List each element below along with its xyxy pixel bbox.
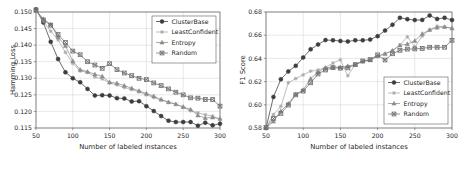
data-point — [294, 64, 298, 68]
y-tick-label: 0.68 — [248, 8, 262, 15]
x-tick-label: 200 — [140, 132, 152, 139]
data-point — [286, 81, 290, 85]
x-axis-title: Number of labeled instances — [79, 143, 177, 151]
data-point — [122, 97, 126, 101]
data-point — [272, 113, 276, 117]
data-point — [428, 13, 432, 17]
x-tick-label: 50 — [262, 132, 270, 139]
data-point — [100, 93, 104, 97]
legend: ClusterBaseLeastConfidentEntropyRandom — [152, 16, 219, 63]
y-axis-title: Hamming Loss — [9, 44, 17, 95]
data-point — [383, 29, 387, 33]
data-point — [338, 39, 342, 43]
data-point — [405, 35, 409, 39]
data-point — [218, 122, 222, 126]
legend-marker — [392, 81, 396, 85]
x-tick-label: 50 — [32, 132, 40, 139]
legend-marker — [160, 30, 164, 34]
legend-label: ClusterBase — [172, 18, 209, 25]
x-tick-label: 300 — [214, 132, 226, 139]
data-point — [159, 114, 163, 118]
legend-label: Entropy — [404, 100, 428, 108]
data-point — [301, 73, 305, 77]
data-point — [286, 69, 290, 73]
data-point — [309, 69, 313, 73]
y-tick-label: 0.58 — [248, 124, 262, 131]
data-point — [166, 119, 170, 123]
data-point — [152, 109, 156, 113]
data-point — [49, 29, 53, 33]
x-tick-label: 100 — [297, 132, 309, 139]
data-point — [324, 38, 328, 42]
data-point — [144, 104, 148, 108]
data-point — [211, 123, 215, 127]
f1-score-chart: 501001502002503000.580.600.620.640.660.6… — [232, 0, 464, 169]
data-point — [93, 94, 97, 98]
data-point — [316, 42, 320, 46]
data-point — [130, 99, 134, 103]
y-tick-label: 0.64 — [248, 55, 262, 62]
data-point — [56, 57, 60, 61]
data-point — [196, 124, 200, 128]
data-point — [64, 51, 68, 55]
x-tick-label: 250 — [409, 132, 421, 139]
data-point — [346, 74, 350, 78]
legend-label: Random — [172, 49, 198, 56]
figure-container: 501001502002503000.1150.1200.1250.1300.1… — [0, 0, 464, 169]
data-point — [368, 38, 372, 42]
chart-panel-hamming-loss: 501001502002503000.1150.1200.1250.1300.1… — [0, 0, 232, 169]
data-point — [49, 40, 53, 44]
y-tick-label: 0.60 — [248, 101, 262, 108]
chart-panel-f1-score: 501001502002503000.580.600.620.640.660.6… — [232, 0, 464, 169]
legend-marker — [160, 20, 164, 24]
data-point — [443, 16, 447, 20]
data-point — [331, 38, 335, 42]
x-axis-title: Number of labeled instances — [310, 143, 408, 151]
legend-marker — [392, 91, 396, 95]
legend-label: LeastConfident — [404, 89, 451, 96]
data-point — [398, 16, 402, 20]
y-tick-label: 0.120 — [14, 108, 32, 115]
data-point — [271, 95, 275, 99]
x-tick-label: 200 — [372, 132, 384, 139]
data-point — [346, 39, 350, 43]
data-point — [63, 70, 67, 74]
data-point — [108, 94, 112, 98]
data-point — [339, 58, 343, 62]
legend-label: ClusterBase — [404, 79, 441, 86]
data-point — [294, 77, 298, 81]
data-point — [174, 120, 178, 124]
data-point — [353, 38, 357, 42]
data-point — [86, 87, 90, 91]
data-point — [137, 99, 141, 103]
data-point — [450, 18, 454, 22]
data-point — [376, 34, 380, 38]
data-point — [115, 96, 119, 100]
data-point — [413, 18, 417, 22]
data-point — [361, 38, 365, 42]
data-point — [71, 76, 75, 80]
x-tick-label: 100 — [67, 132, 79, 139]
legend-label: Random — [404, 110, 430, 117]
data-point — [203, 121, 207, 125]
y-tick-label: 0.150 — [14, 8, 32, 15]
y-axis-title: F1 Score — [239, 55, 247, 84]
y-tick-label: 0.115 — [14, 124, 32, 131]
legend-label: LeastConfident — [172, 28, 219, 35]
data-point — [405, 17, 409, 21]
x-tick-label: 150 — [334, 132, 346, 139]
data-point — [279, 77, 283, 81]
x-tick-label: 150 — [104, 132, 116, 139]
y-tick-label: 0.62 — [248, 78, 262, 85]
data-point — [435, 17, 439, 21]
hamming-loss-chart: 501001502002503000.1150.1200.1250.1300.1… — [0, 0, 232, 169]
x-tick-label: 300 — [446, 132, 458, 139]
data-point — [301, 55, 305, 59]
legend-label: Entropy — [172, 39, 196, 47]
data-point — [390, 23, 394, 27]
x-tick-label: 250 — [177, 132, 189, 139]
data-point — [309, 47, 313, 51]
data-point — [189, 120, 193, 124]
data-point — [420, 18, 424, 22]
data-point — [279, 105, 283, 109]
